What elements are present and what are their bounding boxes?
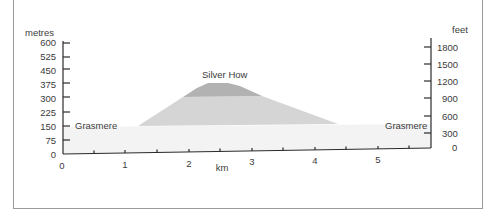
x-axis-title: km	[216, 163, 229, 173]
start-label-grasmere: Grasmere	[75, 121, 117, 131]
left-tick-label: 300	[26, 94, 56, 104]
right-axis-title: feet	[452, 25, 468, 35]
left-tick-label: 0	[26, 150, 56, 160]
x-tick-label: 0	[59, 161, 64, 171]
left-tick-label: 150	[26, 122, 56, 132]
right-tick-label: 300	[442, 129, 458, 139]
right-tick-label: 0	[452, 143, 457, 153]
right-tick-label: 1800	[437, 43, 458, 53]
right-tick-label: 1500	[437, 60, 458, 70]
x-tick-label: 1	[122, 160, 127, 170]
peak-label-silver-how: Silver How	[202, 70, 247, 80]
x-tick-label: 4	[312, 156, 317, 166]
elevation-profile-chart	[0, 0, 484, 209]
left-tick-label: 375	[26, 80, 56, 90]
left-tick-label: 75	[26, 136, 56, 146]
right-tick-label: 900	[442, 94, 458, 104]
left-tick-label: 450	[26, 66, 56, 76]
end-label-grasmere: Grasmere	[385, 121, 427, 131]
left-tick-label: 525	[26, 52, 56, 62]
left-tick-label: 600	[26, 38, 56, 48]
x-tick-label: 2	[186, 159, 191, 169]
right-tick-label: 1200	[437, 77, 458, 87]
x-tick-label: 5	[375, 155, 380, 165]
right-tick-label: 600	[442, 112, 458, 122]
x-tick-label: 3	[249, 157, 254, 167]
summit-layer-area	[183, 83, 262, 97]
left-tick-label: 225	[26, 108, 56, 118]
slopes-layer-area	[138, 96, 338, 126]
